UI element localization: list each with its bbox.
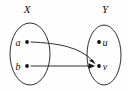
element-a-dot xyxy=(25,40,29,44)
set-y-label: Y xyxy=(102,3,110,15)
element-v-label: v xyxy=(103,61,108,72)
arrow-a-to-v-head xyxy=(89,59,96,64)
set-x-ellipse xyxy=(10,23,50,85)
arrow-b-to-v-head xyxy=(89,63,96,68)
set-mapping-diagram: X Y a b u v xyxy=(0,0,129,90)
diagram-canvas: X Y a b u v xyxy=(0,0,129,90)
set-y-ellipse xyxy=(87,25,121,85)
element-u-label: u xyxy=(103,37,108,48)
element-b-dot xyxy=(25,64,29,68)
element-u-dot xyxy=(97,40,101,44)
arrow-a-to-v-path xyxy=(31,42,93,61)
element-v-dot xyxy=(97,64,101,68)
element-a-label: a xyxy=(16,37,21,48)
element-b-label: b xyxy=(16,61,21,72)
set-x-label: X xyxy=(23,3,32,15)
